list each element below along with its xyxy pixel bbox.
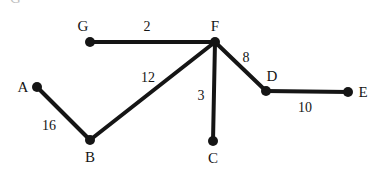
graph-canvas [0,0,374,173]
node-label-D: D [267,69,278,84]
graph-node-B [85,135,95,145]
edges-group [37,42,348,141]
node-label-A: A [18,80,29,95]
edge-weight-F-B: 12 [141,71,155,85]
graph-node-E [343,87,353,97]
node-label-C: C [208,151,218,166]
graph-node-D [261,86,271,96]
graph-diagram: G 281031216ABCDEFG [0,0,374,173]
node-label-E: E [358,85,367,100]
graph-node-G [85,37,95,47]
graph-node-C [208,136,218,146]
edge-weight-D-E: 10 [298,101,312,115]
graph-node-A [32,82,42,92]
graph-edge-F-B [90,42,215,140]
node-label-B: B [85,150,95,165]
graph-edge-F-D [215,42,266,91]
edge-weight-F-D: 8 [243,51,250,65]
graph-node-F [210,37,220,47]
edge-weight-G-F: 2 [144,20,151,34]
node-label-F: F [211,19,219,34]
node-label-G: G [78,19,89,34]
edge-weight-B-A: 16 [42,119,56,133]
graph-edge-D-E [266,91,348,92]
edge-weight-F-C: 3 [198,89,205,103]
graph-edge-F-C [213,42,215,141]
